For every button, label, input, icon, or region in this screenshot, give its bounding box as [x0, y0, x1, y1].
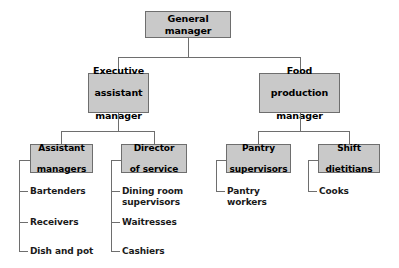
node-general-manager[interactable]: General manager: [145, 11, 231, 38]
connector-fpm-stem: [300, 113, 301, 131]
connector-leaf-cashiers: [111, 251, 120, 252]
ps-line-1: Pantry: [228, 143, 290, 154]
org-chart: General manager Executiveassistantmanage…: [0, 0, 399, 268]
connector-director-of-service-entry: [111, 160, 122, 161]
connector-shift-dietitians-spine: [308, 160, 309, 191]
node-assistant-managers[interactable]: Assistantmanagers: [30, 144, 93, 173]
leaf-waitresses: Waitresses: [122, 217, 177, 228]
connector-leaf-receivers: [19, 222, 28, 223]
am-line-1: Assistant: [35, 143, 88, 154]
fpm-line-1: Food: [269, 65, 330, 76]
node-food-production-manager[interactable]: Foodproductionmanager: [259, 73, 340, 113]
connector-pantry-supervisors-spine: [216, 160, 217, 191]
connector-leaf-dining-room-supervisors: [111, 191, 120, 192]
connector-assistant-managers-entry: [19, 160, 31, 161]
node-shift-dietitians[interactable]: Shiftdietitians: [318, 144, 380, 173]
connector-leaf-bartenders: [19, 191, 28, 192]
connector-right-level3-bus: [258, 131, 349, 132]
leaf-dish-and-pot: Dish and pot: [30, 246, 93, 257]
leaf-cooks: Cooks: [319, 186, 349, 197]
connector-assistant-managers-spine: [19, 160, 20, 251]
eam-line-2: assistant: [91, 87, 146, 98]
connector-shift-dietitians-entry: [308, 160, 319, 161]
sd-line-2: dietitians: [323, 164, 374, 175]
node-director-of-service[interactable]: Directorof service: [121, 144, 187, 173]
node-executive-assistant-manager[interactable]: Executiveassistantmanager: [88, 73, 149, 113]
eam-line-1: Executive: [91, 65, 146, 76]
leaf-receivers: Receivers: [30, 217, 78, 228]
connector-leaf-dish-and-pot: [19, 251, 28, 252]
connector-eam-stem: [118, 113, 119, 131]
leaf-pantry-workers: Pantry workers: [227, 186, 267, 209]
leaf-cashiers: Cashiers: [122, 246, 165, 257]
am-line-2: managers: [35, 164, 88, 175]
connector-level2-bus: [118, 57, 300, 58]
node-shift-dietitians-label: Shiftdietitians: [321, 143, 376, 175]
node-pantry-supervisors-label: Pantrysupervisors: [226, 143, 292, 175]
fpm-line-2: production: [269, 87, 330, 98]
node-director-of-service-label: Directorof service: [126, 143, 183, 175]
connector-pantry-supervisors-entry: [216, 160, 227, 161]
sd-line-1: Shift: [323, 143, 374, 154]
node-assistant-managers-label: Assistantmanagers: [33, 143, 90, 175]
ps-line-2: supervisors: [228, 164, 290, 175]
node-general-manager-label: General manager: [146, 13, 230, 35]
connector-leaf-waitresses: [111, 222, 120, 223]
leaf-bartenders: Bartenders: [30, 186, 86, 197]
connector-gm-stem: [188, 38, 189, 57]
connector-director-of-service-spine: [111, 160, 112, 251]
connector-leaf-cooks: [308, 191, 317, 192]
dos-line-2: of service: [128, 164, 181, 175]
connector-leaf-pantry-workers: [216, 191, 225, 192]
connector-left-level3-bus: [61, 131, 154, 132]
node-pantry-supervisors[interactable]: Pantrysupervisors: [226, 144, 291, 173]
leaf-dining-room-supervisors: Dining room supervisors: [122, 186, 183, 209]
dos-line-1: Director: [128, 143, 181, 154]
